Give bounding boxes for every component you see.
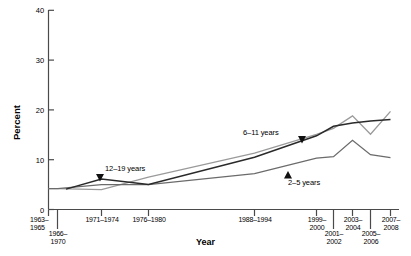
x-tick-label-1966-1970: 1966– 1970 [40, 230, 76, 245]
y-tick-label-20: 20 [24, 106, 44, 115]
x-tick-label-1988-1994: 1988–1994 [227, 216, 283, 224]
x-tick-label-2003-2004-line1: 2003– [335, 216, 371, 224]
x-tick-label-2007-2008-line1: 2007– [373, 216, 409, 224]
x-tick-label-2005-2006-line1: 2005– [353, 230, 389, 238]
x-tick-label-2001-2002-line1: 2001– [316, 230, 352, 238]
x-tick-label-1999-2000-line1: 1999– [299, 216, 335, 224]
y-tick-label-0: 0 [24, 206, 44, 215]
y-tick-label-40: 40 [24, 6, 44, 15]
series-label-2-5: 2–5 years [288, 178, 320, 187]
y-tick-label-30: 30 [24, 56, 44, 65]
series-label-6-11: 6–11 years [243, 128, 279, 137]
x-tick-label-2005-2006-line2: 2006 [353, 238, 389, 246]
x-tick-label-2007-2008: 2007– 2008 [373, 216, 409, 231]
x-tick-label-1999-2000: 1999– 2000 [299, 216, 335, 231]
x-tick-label-2001-2002: 2001– 2002 [316, 230, 352, 245]
x-tick-label-2005-2006: 2005– 2006 [353, 230, 389, 245]
series-label-12-19: 12–19 years [105, 164, 145, 173]
x-axis-title: Year [196, 237, 215, 247]
x-tick-label-1963-1965: 1963– 1965 [30, 216, 68, 231]
x-tick-label-1963-1965-line1: 1963– [30, 216, 68, 224]
x-tick-label-1966-1970-line1: 1966– [40, 230, 76, 238]
chart-figure: 40 30 20 10 0 Percent 1963– 1965 1971–19… [0, 0, 411, 256]
x-tick-label-2003-2004: 2003– 2004 [335, 216, 371, 231]
series-line-2-5 [49, 140, 391, 188]
y-tick-label-10: 10 [24, 156, 44, 165]
y-tick-marks [49, 10, 55, 209]
series-line-12-19 [66, 119, 391, 189]
x-tick-label-2001-2002-line2: 2002 [316, 238, 352, 246]
y-axis-title: Percent [11, 105, 22, 140]
x-tick-label-1976-1980: 1976–1980 [121, 216, 177, 224]
x-tick-label-1966-1970-line2: 1970 [40, 238, 76, 246]
